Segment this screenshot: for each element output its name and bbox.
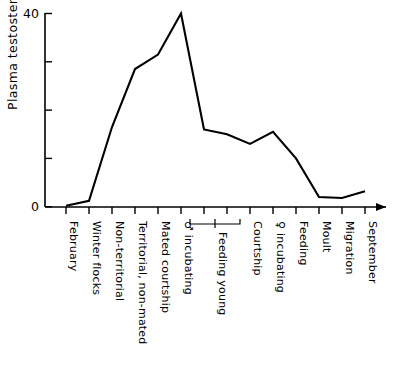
x-label-5: ♂ incubating xyxy=(182,221,195,295)
x-label-0: February xyxy=(67,221,80,272)
x-label-3: Territorial, non-mated xyxy=(136,220,149,345)
testosterone-line-chart: Plasma testosterone (ng/ml) 40 0 xyxy=(0,0,409,369)
x-label-12: Migration xyxy=(343,221,356,275)
chart-container: Plasma testosterone (ng/ml) 40 0 xyxy=(0,0,409,369)
y-tick-marks xyxy=(45,14,52,207)
group-label-feeding-young: Feeding young xyxy=(216,232,229,316)
x-label-2: Non-territorial xyxy=(113,221,126,301)
x-label-4: Mated courtship xyxy=(159,221,172,313)
x-label-8: Courtship xyxy=(251,221,264,276)
x-label-13: September xyxy=(366,221,379,284)
data-series-line xyxy=(66,14,365,206)
x-label-10: Feeding xyxy=(297,221,310,266)
x-label-11: Moult xyxy=(320,221,333,253)
y-axis-title: Plasma testosterone (ng/ml) xyxy=(5,0,20,110)
x-axis-arrow xyxy=(376,203,386,211)
feeding-young-brace xyxy=(190,219,240,228)
x-label-1: Winter flocks xyxy=(90,221,103,295)
x-label-9: ♀ incubating xyxy=(274,221,287,293)
y-tick-label-0: 0 xyxy=(31,199,39,214)
y-tick-label-40: 40 xyxy=(23,6,39,21)
x-tick-marks xyxy=(66,207,365,214)
